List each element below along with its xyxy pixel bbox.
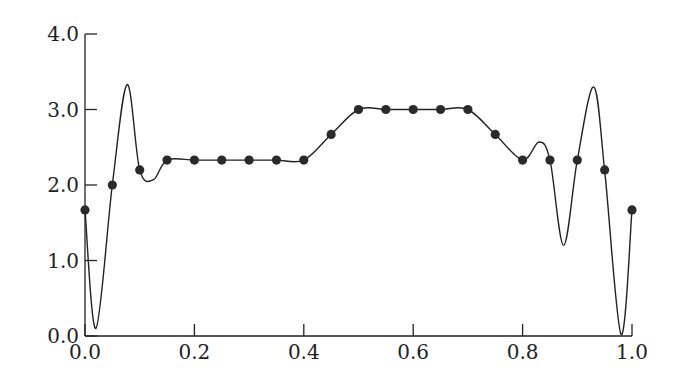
data-point bbox=[245, 155, 254, 164]
x-tick-label: 0.8 bbox=[507, 340, 539, 364]
x-tick-label: 0.2 bbox=[178, 340, 210, 364]
x-axis: 0.00.20.40.60.81.0 bbox=[69, 324, 648, 364]
data-point bbox=[573, 155, 582, 164]
y-tick-label: 2.0 bbox=[47, 173, 79, 197]
x-tick-label: 1.0 bbox=[616, 340, 648, 364]
x-tick-label: 0.4 bbox=[288, 340, 320, 364]
data-point bbox=[217, 155, 226, 164]
data-point bbox=[135, 165, 144, 174]
y-tick-label: 1.0 bbox=[47, 249, 79, 273]
plot-area bbox=[80, 85, 636, 335]
x-tick-label: 0.6 bbox=[397, 340, 429, 364]
data-point bbox=[162, 155, 171, 164]
data-point bbox=[327, 130, 336, 139]
data-point bbox=[354, 105, 363, 114]
data-point bbox=[190, 155, 199, 164]
line-chart: 0.01.02.03.04.0 0.00.20.40.60.81.0 bbox=[0, 0, 680, 390]
data-point bbox=[409, 105, 418, 114]
data-point bbox=[627, 205, 636, 214]
x-tick-label: 0.0 bbox=[69, 340, 101, 364]
data-point bbox=[272, 155, 281, 164]
data-point bbox=[108, 180, 117, 189]
interpolating-curve bbox=[85, 85, 632, 335]
y-tick-label: 3.0 bbox=[47, 98, 79, 122]
y-axis: 0.01.02.03.04.0 bbox=[47, 22, 97, 348]
data-point bbox=[299, 155, 308, 164]
sample-points bbox=[80, 105, 636, 215]
data-point bbox=[463, 105, 472, 114]
data-point bbox=[600, 165, 609, 174]
data-point bbox=[491, 130, 500, 139]
data-point bbox=[80, 205, 89, 214]
data-point bbox=[518, 155, 527, 164]
y-tick-label: 4.0 bbox=[47, 22, 79, 46]
data-point bbox=[436, 105, 445, 114]
data-point bbox=[545, 155, 554, 164]
data-point bbox=[381, 105, 390, 114]
